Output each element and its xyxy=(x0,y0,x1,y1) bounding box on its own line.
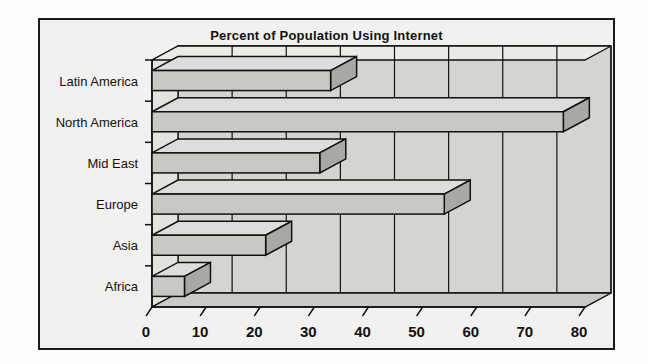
x-axis-tick-marks xyxy=(146,307,585,316)
bar-latin-america xyxy=(152,57,357,91)
plot-floor xyxy=(152,293,611,307)
x-tick-label-0: 0 xyxy=(142,323,150,340)
bar-north-america xyxy=(152,98,589,132)
x-tick-label-80: 80 xyxy=(571,323,588,340)
x-tick-label-50: 50 xyxy=(408,323,425,340)
category-label-latin-america: Latin America xyxy=(59,74,139,89)
category-label-europe: Europe xyxy=(96,197,138,212)
y-axis-category-labels: AfricaAsiaEuropeMid EastNorth AmericaLat… xyxy=(56,74,139,295)
x-tick-label-10: 10 xyxy=(192,323,209,340)
chart-page: Percent of Population Using Internet Afr… xyxy=(0,0,648,364)
category-label-mid-east: Mid East xyxy=(87,156,138,171)
bar-europe xyxy=(152,180,470,214)
x-tick-label-70: 70 xyxy=(517,323,534,340)
bar-chart: AfricaAsiaEuropeMid EastNorth AmericaLat… xyxy=(0,0,648,364)
category-label-asia: Asia xyxy=(113,238,139,253)
x-tick-label-20: 20 xyxy=(246,323,263,340)
category-label-africa: Africa xyxy=(105,279,139,294)
x-tick-label-30: 30 xyxy=(300,323,317,340)
x-axis-tick-labels: 01020304050607080 xyxy=(142,323,588,340)
x-tick-label-60: 60 xyxy=(462,323,479,340)
bar-mid-east xyxy=(152,139,346,173)
bar-asia xyxy=(152,221,292,255)
y-axis-tick-marks xyxy=(145,60,152,266)
x-tick-label-40: 40 xyxy=(354,323,371,340)
category-label-north-america: North America xyxy=(56,115,139,130)
